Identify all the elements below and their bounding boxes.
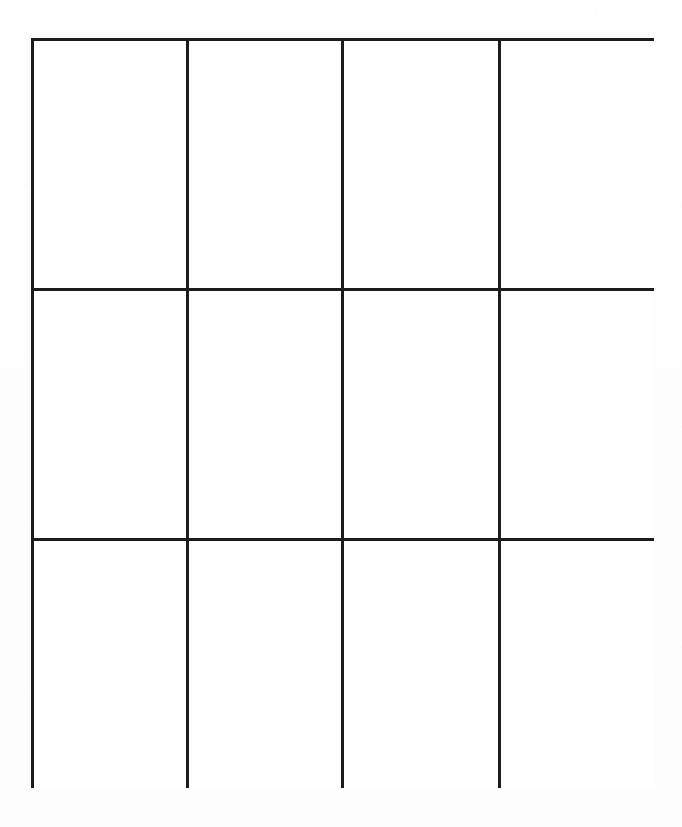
- grid-cell-r1c3[interactable]: [344, 41, 498, 288]
- grid-cell-text: [501, 41, 654, 288]
- grid-cell-r3c4[interactable]: [501, 541, 654, 788]
- grid-table: [31, 38, 654, 788]
- grid-cell-r1c4[interactable]: [501, 41, 654, 288]
- grid-cell-r2c2[interactable]: [189, 291, 341, 538]
- grid-cell-text: [34, 291, 186, 538]
- grid-cell-r2c3[interactable]: [344, 291, 498, 538]
- grid-cell-text: [344, 291, 498, 538]
- grid-cell-r3c1[interactable]: [34, 541, 186, 788]
- grid-cell-text: [344, 541, 498, 788]
- grid-cell-text: [189, 41, 341, 288]
- grid-cell-text: [34, 541, 186, 788]
- grid-cell-text: [344, 41, 498, 288]
- grid-cell-r1c1[interactable]: [34, 41, 186, 288]
- grid-cell-text: [189, 291, 341, 538]
- grid-cell-r2c1[interactable]: [34, 291, 186, 538]
- grid-cell-r3c2[interactable]: [189, 541, 341, 788]
- grid-cell-text: [501, 541, 654, 788]
- grid-cell-text: [189, 541, 341, 788]
- grid-cell-r2c4[interactable]: [501, 291, 654, 538]
- grid-cell-r1c2[interactable]: [189, 41, 341, 288]
- grid-cell-r3c3[interactable]: [344, 541, 498, 788]
- grid-cell-text: [501, 291, 654, 538]
- grid-cell-text: [34, 41, 186, 288]
